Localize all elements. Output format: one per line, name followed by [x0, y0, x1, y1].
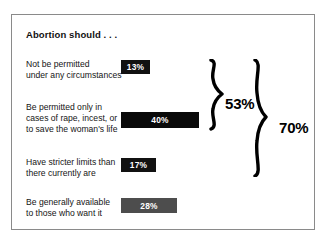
row-label-line-2: there currently are: [26, 168, 96, 178]
bar-value-label: 17%: [130, 160, 147, 170]
page-title: Abortion should . . .: [26, 29, 117, 40]
chart-frame: Abortion should . . . Not be permitted u…: [11, 14, 315, 230]
bar-generally-available: 28%: [121, 198, 177, 213]
row-label-line-1: Be permitted only in: [26, 102, 102, 112]
curly-brace-icon: [252, 59, 268, 177]
bar-value-label: 40%: [151, 115, 168, 125]
row-label-rape-incest: Be permitted only in cases of rape, ince…: [26, 102, 117, 136]
bar-stricter: 17%: [121, 158, 156, 172]
bar-value-label: 28%: [140, 201, 157, 211]
row-label-line-1: Be generally available: [26, 197, 110, 207]
curly-brace-icon: [208, 59, 224, 131]
row-label-line-2: under any circumstances: [26, 70, 122, 80]
brace-value-70: 70%: [279, 119, 308, 136]
row-label-line-3: to save the woman's life: [26, 124, 117, 134]
row-label-stricter: Have stricter limits than there currentl…: [26, 157, 115, 179]
row-label-line-1: Have stricter limits than: [26, 157, 115, 167]
row-label-line-1: Not be permitted: [26, 59, 90, 69]
bar-value-label: 13%: [127, 62, 144, 72]
row-label-not-permitted: Not be permitted under any circumstances: [26, 59, 122, 81]
row-label-generally-available: Be generally available to those who want…: [26, 197, 110, 219]
brace-value-53: 53%: [225, 95, 254, 112]
row-label-line-2: to those who want it: [26, 208, 102, 218]
bar-rape-incest: 40%: [121, 112, 199, 128]
row-label-line-2: cases of rape, incest, or: [26, 113, 117, 123]
bar-not-permitted: 13%: [121, 60, 150, 74]
